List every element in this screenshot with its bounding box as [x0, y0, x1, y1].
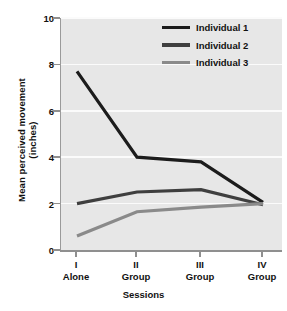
y-tick-4 [53, 156, 60, 158]
x-tick-label-3: IIIGroup [165, 259, 235, 283]
x-tick-label-4: IVGroup [227, 259, 287, 283]
x-axis-title: Sessions [0, 289, 287, 300]
y-tick-8 [53, 64, 60, 66]
x-tick-1 [75, 250, 77, 257]
y-tick-label-0: 0 [28, 245, 54, 256]
y-tick-label-8: 8 [28, 59, 54, 70]
series-line-individual-1 [77, 71, 263, 202]
y-tick-6 [53, 110, 60, 112]
y-tick-label-2: 2 [28, 198, 54, 209]
legend-label-individual-1: Individual 1 [196, 22, 248, 33]
y-axis-title-line1: Mean perceived movement [16, 78, 28, 202]
x-tick-label-session-number: II [101, 259, 171, 271]
x-tick-2 [135, 250, 137, 257]
y-tick-label-6: 6 [28, 105, 54, 116]
legend-item-individual-1: Individual 1 [162, 22, 248, 33]
legend-line-swatch-icon [162, 61, 190, 64]
y-tick-0 [53, 249, 60, 251]
y-tick-label-4: 4 [28, 152, 54, 163]
x-tick-label-condition: Group [101, 271, 171, 283]
y-tick-10 [53, 17, 60, 19]
x-axis-line [60, 250, 282, 252]
x-tick-label-condition: Group [227, 271, 287, 283]
x-tick-label-condition: Group [165, 271, 235, 283]
legend-line-swatch-icon [162, 43, 190, 46]
series-line-individual-2 [77, 190, 263, 205]
series-line-individual-3 [77, 204, 263, 236]
chart-legend: Individual 1Individual 2Individual 3 [162, 22, 248, 68]
x-tick-label-session-number: IV [227, 259, 287, 271]
x-tick-label-2: IIGroup [101, 259, 171, 283]
legend-item-individual-3: Individual 3 [162, 57, 248, 68]
legend-label-individual-3: Individual 3 [196, 57, 248, 68]
x-tick-4 [261, 250, 263, 257]
legend-label-individual-2: Individual 2 [196, 40, 248, 51]
x-tick-label-session-number: III [165, 259, 235, 271]
legend-item-individual-2: Individual 2 [162, 40, 248, 51]
y-axis-tick-labels: 0246810 [28, 18, 54, 250]
y-tick-label-10: 10 [28, 13, 54, 24]
legend-line-swatch-icon [162, 26, 190, 29]
x-tick-3 [199, 250, 201, 257]
y-tick-2 [53, 203, 60, 205]
line-chart-figure: Mean perceived movement (inches) 0246810… [0, 0, 287, 311]
